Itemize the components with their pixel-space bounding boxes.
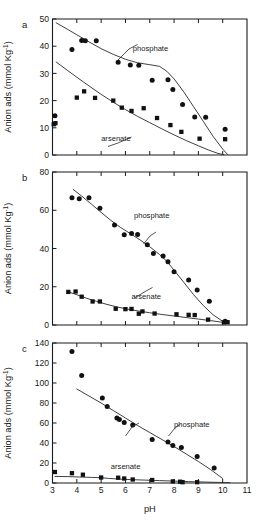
x-tick-label: 7 [147,485,152,495]
data-point [171,479,175,483]
data-point [69,195,74,200]
fit-curve-arsenate-fit [55,476,230,482]
data-point [53,121,57,125]
data-point [135,232,140,237]
panel-letter-b: b [22,172,27,183]
data-point [123,307,127,311]
data-point [73,289,77,293]
data-point [114,307,118,311]
fit-curve-phosphate-fit [73,189,229,323]
plot-frame [53,343,248,483]
y-tick-label: 0 [44,150,49,160]
panel-b: 020406080phosphatearsenatebAnion ads (mm… [2,167,247,330]
data-point [186,278,191,283]
x-tick-label: 11 [243,485,252,495]
plot-frame [53,172,248,325]
data-point [112,222,117,227]
y-tick-label: 40 [39,41,49,51]
data-point [223,137,227,141]
y-tick-label: 0 [44,320,49,330]
x-tick-label: 4 [74,485,79,495]
data-point [165,259,170,264]
data-point [150,478,154,482]
y-tick-label: 80 [39,398,49,408]
y-tick-label: 80 [39,167,49,177]
data-point [120,106,124,110]
data-point [145,242,150,247]
data-point [122,232,127,237]
y-tick-label: 60 [39,418,49,428]
y-tick-label: 20 [39,458,49,468]
data-point [90,299,94,303]
data-point [116,476,120,480]
data-point [150,78,155,83]
data-point [170,87,175,92]
data-point [129,231,134,236]
data-point [94,38,99,43]
data-point [203,115,208,120]
y-tick-label: 0 [44,478,49,488]
data-point [142,106,146,110]
y-tick-label: 30 [39,69,49,79]
data-point [79,373,84,378]
data-point [82,89,86,93]
data-point [179,130,183,134]
series-phosphate [69,349,216,471]
data-point [66,290,70,294]
data-point [52,113,57,118]
data-point [80,295,84,299]
panel-letter-a: a [22,19,28,30]
x-tick-label: 10 [218,485,228,495]
data-point [70,471,74,475]
y-tick-label: 100 [35,378,50,388]
data-point [129,109,133,113]
data-point [122,476,126,480]
panel-letter-c: c [22,343,27,354]
data-point [151,251,156,256]
data-point [187,313,191,317]
data-point [180,480,184,484]
data-point [69,47,74,52]
y-tick-label: 20 [39,282,49,292]
figure-container: 01020304050phosphatearsenateaAnion ads (… [0,0,263,523]
y-tick-label: 140 [35,338,50,348]
data-point [77,196,82,201]
x-tick-label: 6 [123,485,128,495]
data-point [131,477,135,481]
data-point [75,95,79,99]
annotation-leader-line [144,232,157,244]
y-tick-label: 40 [39,244,49,254]
data-point [99,475,103,479]
data-point [165,77,170,82]
data-point [197,137,201,141]
data-point [122,420,127,425]
data-point [195,454,200,459]
data-point [223,127,228,132]
anion-adsorption-figure: 01020304050phosphatearsenateaAnion ads (… [0,0,263,523]
data-point [86,195,91,200]
y-tick-label: 10 [39,123,49,133]
data-point [129,307,133,311]
x-tick-label: 3 [50,485,55,495]
y-tick-label: 40 [39,438,49,448]
series-annotation-arsenate: arsenate [111,462,141,471]
data-point [69,349,74,354]
data-point [195,480,199,484]
panel-c: 02040608010012014034567891011phosphatear… [2,338,252,494]
x-tick-label: 9 [196,485,201,495]
data-point [93,96,97,100]
data-point [152,311,156,315]
data-point [150,437,155,442]
panel-a: 01020304050phosphatearsenateaAnion ads (… [2,14,247,160]
y-axis-title: Anion ads (mmol Kg-1) [2,41,13,132]
data-point [105,404,110,409]
y-tick-label: 50 [39,14,49,24]
data-point [81,473,85,477]
data-point [212,466,217,471]
y-tick-label: 20 [39,96,49,106]
series-annotation-phosphate: phosphate [134,211,169,220]
y-tick-label: 120 [35,358,50,368]
data-point [170,443,175,448]
data-point [136,63,141,68]
data-point [128,62,133,67]
